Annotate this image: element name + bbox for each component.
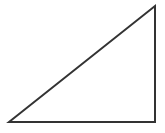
figure-canvas bbox=[0, 0, 165, 133]
right-triangle-svg bbox=[0, 0, 165, 133]
right-triangle-outline bbox=[9, 6, 155, 122]
